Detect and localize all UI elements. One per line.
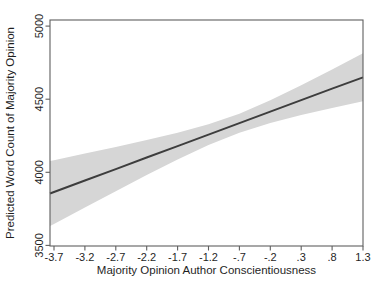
x-tick-label: -1.2	[199, 251, 218, 263]
y-tick-label: 3500	[33, 233, 45, 257]
y-tick-label: 5000	[33, 14, 45, 38]
fit-line	[50, 77, 363, 193]
y-axis-title: Predicted Word Count of Majority Opinion	[3, 23, 17, 243]
x-tick-label: -.7	[233, 251, 246, 263]
confidence-band	[50, 53, 363, 226]
x-tick-label: -2.2	[137, 251, 156, 263]
x-tick-label: -1.7	[168, 251, 187, 263]
x-axis-title: Majority Opinion Author Conscientiousnes…	[50, 263, 363, 277]
y-tick-label: 4500	[33, 87, 45, 111]
y-tick-label: 4000	[33, 160, 45, 184]
x-tick-label: -3.2	[75, 251, 94, 263]
x-tick-label: .8	[328, 251, 337, 263]
x-tick-label: 1.3	[355, 251, 370, 263]
x-tick-label: -2.7	[106, 251, 125, 263]
x-tick-label: -.2	[264, 251, 277, 263]
x-tick-label: -3.7	[45, 251, 64, 263]
chart-figure: -3.7-3.2-2.7-2.2-1.7-1.2-.7-.2.3.81.3350…	[0, 0, 387, 291]
plot-canvas: -3.7-3.2-2.7-2.2-1.7-1.2-.7-.2.3.81.3350…	[0, 0, 387, 291]
x-tick-label: .3	[297, 251, 306, 263]
